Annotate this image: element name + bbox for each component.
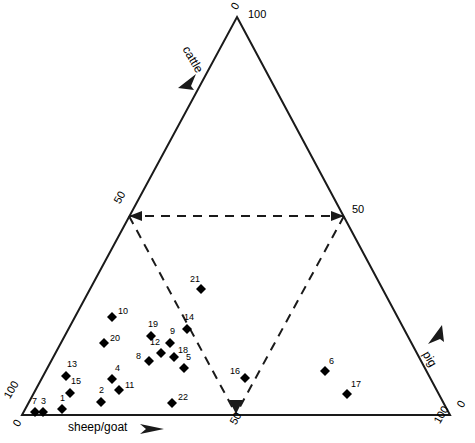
arrow-pig (428, 325, 444, 344)
data-point-marker (196, 284, 206, 294)
guide-arrowheads (129, 211, 344, 414)
axis-direction-arrows (140, 74, 444, 434)
data-point-label: 1 (60, 394, 65, 403)
data-point-label: 7 (32, 397, 37, 406)
data-point-marker (156, 348, 166, 358)
data-point-label: 2 (99, 386, 104, 395)
data-point-marker (165, 338, 175, 348)
data-point-label: 9 (170, 327, 175, 336)
triangle-outline (22, 17, 450, 415)
data-point-label: 16 (230, 367, 240, 376)
data-point-marker (107, 374, 117, 384)
data-point-label: 21 (190, 275, 200, 284)
data-point-marker (96, 397, 106, 407)
data-point-marker (144, 356, 154, 366)
data-point-label: 11 (125, 381, 134, 390)
data-point-marker (57, 404, 67, 414)
data-point-label: 18 (178, 346, 188, 355)
data-point-marker (342, 389, 352, 399)
arrow-sheep-goat (140, 424, 164, 434)
data-point-label: 12 (150, 338, 160, 347)
data-point-marker (61, 371, 71, 381)
data-point-label: 6 (329, 357, 334, 366)
data-point-label: 22 (178, 393, 188, 402)
axis-label-sheep-goat: sheep/goat (68, 421, 127, 433)
data-point-marker (114, 385, 124, 395)
data-point-marker (182, 324, 192, 334)
data-point-marker (179, 363, 189, 373)
data-point-label: 20 (110, 334, 120, 343)
tick-right-50: 50 (352, 204, 364, 215)
data-point-label: 4 (115, 364, 120, 373)
data-point-marker (99, 338, 109, 348)
data-point-label: 13 (67, 360, 77, 369)
data-point-label: 3 (41, 397, 46, 406)
data-point-marker (240, 373, 250, 383)
dashed-guides (129, 216, 344, 414)
data-markers (30, 284, 352, 417)
data-point-label: 10 (118, 307, 128, 316)
data-point-label: 8 (136, 352, 141, 361)
tick-apex-100: 100 (248, 9, 266, 20)
data-point-label: 19 (148, 320, 158, 329)
data-point-marker (107, 312, 117, 322)
data-point-marker (167, 398, 177, 408)
data-point-label: 14 (184, 313, 194, 322)
arrow-cattle (178, 74, 196, 90)
data-point-label: 17 (351, 380, 361, 389)
data-point-marker (320, 366, 330, 376)
data-point-marker (65, 388, 75, 398)
data-point-label: 15 (71, 377, 81, 386)
